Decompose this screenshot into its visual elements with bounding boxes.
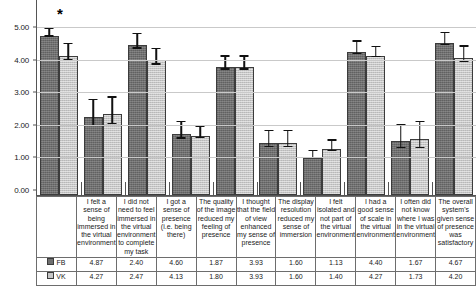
error-bar [137,33,139,47]
data-table-body: I felt a sense of being immersed in the … [37,197,476,286]
bar-slot [259,0,278,195]
bar-fb [216,67,235,195]
bar-fb [391,141,410,195]
bar-vk [147,60,166,195]
table-row: FB4.872.404.601.873.931.601.134.401.674.… [37,257,476,271]
table-value-cell: 4.87 [76,257,116,271]
significance-asterisk: * [57,6,63,21]
error-bar-cap-top [264,130,273,132]
error-bar-cap-bottom [352,53,361,55]
bar-slot [84,0,103,195]
bar-fb [259,143,278,195]
error-bar-cap-top [108,96,117,98]
table-value-cell: 4.67 [436,257,476,271]
table-value-cell: 4.20 [436,271,476,285]
bar-slot [235,0,254,195]
gridline [37,92,476,93]
bar-slot [103,0,122,195]
table-value-cell: 1.60 [276,271,316,285]
bar-pair [213,0,257,195]
table-row: VK4.272.474.131.803.931.601.404.271.734.… [37,271,476,285]
bar-slot [172,0,191,195]
y-tick-label: 3.00 [14,88,29,97]
bar-group [213,0,257,195]
table-value-cell: 4.13 [156,271,196,285]
error-bar-cap-top [89,99,98,101]
bar-vk [278,143,297,195]
error-bar-cap-bottom [459,61,468,63]
bar-slot [303,0,322,195]
error-bar-cap-top [240,55,249,57]
bar-slot [366,0,385,195]
error-bar-cap-bottom [240,68,249,70]
bar-fb [84,117,103,195]
table-value-cell: 2.47 [116,271,156,285]
bar-slot [454,0,473,195]
bar-group [344,0,388,195]
error-bar [180,121,182,137]
error-bar-cap-top [221,55,230,57]
bar-group [257,0,301,195]
error-bar [444,32,446,44]
error-bar [243,55,245,68]
table-value-cell: 1.67 [396,257,436,271]
bar-slot [216,0,235,195]
error-bar-cap-top [327,139,336,141]
error-bar [68,43,70,59]
error-bar-cap-top [415,121,424,123]
bar-slot [59,0,78,195]
error-bar-cap-bottom [415,147,424,149]
legend-item-vk[interactable]: VK [37,271,77,285]
table-value-cell: 1.40 [316,271,356,285]
table-value-cell: 1.73 [396,271,436,285]
error-bar-cap-bottom [396,147,405,149]
y-tick-label: 1.00 [14,153,29,162]
bar-slot [410,0,429,195]
bar-slot [128,0,147,195]
data-table-wrap: I felt a sense of being immersed in the … [36,196,476,286]
table-column-header: The quality of the image reduced my feel… [196,197,236,258]
error-bar [93,99,95,125]
table-column-header: I often did not know where I was in the … [396,197,436,258]
error-bar-cap-top [371,46,380,48]
bar-vk [454,58,473,195]
bar-vk [322,149,341,195]
bar-pair [257,0,301,195]
bar-pair [37,0,81,195]
table-column-header: The display resolution reduced my sense … [276,197,316,258]
gridline [37,27,476,28]
bar-slot [391,0,410,195]
legend-label: VK [56,273,65,281]
bar-pair [300,0,344,195]
error-bar-cap-top [283,130,292,132]
legend-item-fb[interactable]: FB [37,257,77,271]
error-bar-cap-bottom [177,137,186,139]
error-bar-cap-top [308,150,317,152]
error-bar-cap-bottom [283,146,292,148]
y-axis: 0.001.002.003.004.005.00 [0,0,33,196]
bar-slot [147,0,166,195]
table-value-cell: 1.80 [196,271,236,285]
error-bar-cap-bottom [221,68,230,70]
bar-pair [81,0,125,195]
table-corner-cell [37,197,77,258]
table-column-header: I did not need to feel immersed in the v… [116,197,156,258]
legend-label: FB [56,259,65,267]
table-value-cell: 4.27 [356,271,396,285]
error-bar [463,45,465,61]
error-bar-cap-bottom [264,146,273,148]
table-header-row: I felt a sense of being immersed in the … [37,197,476,258]
bar-fb [128,45,147,195]
plot-region: 0.001.002.003.004.005.00 * [0,0,476,196]
data-table: I felt a sense of being immersed in the … [36,196,476,286]
error-bar-cap-bottom [327,150,336,152]
y-tick-label: 5.00 [14,23,29,32]
bar-pair [125,0,169,195]
error-bar [356,40,358,52]
error-bar [331,139,333,149]
error-bar-cap-bottom [440,44,449,46]
y-tick-label: 0.00 [14,186,29,195]
legend-swatch-icon [47,258,54,265]
error-bar-cap-bottom [133,47,142,49]
